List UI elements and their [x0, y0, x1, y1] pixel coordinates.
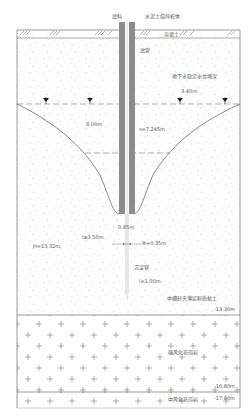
label-sediment-length: l=1.00m: [139, 279, 161, 284]
label-mixing-pile: 水泥土搅拌桩体: [145, 14, 180, 19]
label-well-depth: H=13.32m: [33, 244, 60, 249]
mid-granite-layer: [17, 392, 240, 408]
strong-granite-layer: [17, 315, 240, 392]
label-sand-bottom: -13.30m: [214, 307, 235, 312]
label-stable-water-depth: 地下水稳定水位埋深: [172, 74, 217, 79]
label-filter-material: 滤料: [112, 14, 122, 19]
label-filter-length: l≥3.50m: [82, 235, 104, 240]
label-water-depth-value: 3.40m: [181, 89, 197, 94]
label-pipe-gap: 0.85m: [118, 225, 134, 230]
label-sand-layer: 中细砂夹薄层粉质黏土: [167, 296, 217, 301]
well-section-diagram: [0, 0, 252, 418]
label-fill-soil: 杂填土: [164, 32, 179, 37]
label-filter-tube: 滤管: [140, 48, 150, 53]
label-mid-granite-top: -17.80m: [214, 396, 235, 401]
filter-material-right: [129, 22, 135, 214]
label-strong-granite: 强风化花岗岩: [168, 350, 198, 355]
label-strong-granite-bottom: -16.80m: [214, 384, 235, 389]
label-drawdown-s: s=7.245m: [139, 127, 165, 132]
label-drawdown-radius: 8.00m: [86, 122, 102, 127]
label-mid-granite: 中风化花岗岩: [168, 397, 198, 402]
filter-material-left: [119, 22, 125, 214]
label-well-diameter: Φ=0.35m: [142, 241, 166, 246]
label-sediment-pipe: 沉淀管: [134, 265, 149, 270]
